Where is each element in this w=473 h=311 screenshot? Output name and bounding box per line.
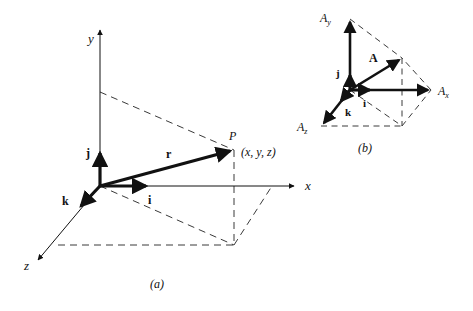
y-axis-label: y [86, 31, 94, 46]
unit-vector-k [341, 90, 350, 101]
x-axis-label: x [304, 178, 311, 193]
component-Ay-label: Ay [319, 11, 331, 27]
point-p-label: P [228, 129, 237, 143]
panel-b-unit-vector-i-label: i [363, 97, 366, 109]
unit-vector-k [81, 186, 100, 206]
position-vector-r-label: r [166, 147, 172, 161]
dash-base-corner-to-x [234, 186, 272, 245]
panel-a-vectors [81, 151, 230, 206]
point-p-coordinates: (x, y, z) [241, 145, 276, 159]
component-Ax-label: Ax [437, 84, 449, 100]
component-Ay-label-subscript: y [326, 18, 331, 27]
dash-Ax-to-A [402, 58, 431, 90]
dash-origin-to-base [350, 90, 402, 126]
z-axis-label: z [23, 258, 29, 273]
component-Az-label: Az [296, 120, 308, 136]
figure-container: y x z i j k r P (x, y, z) (a) [0, 0, 473, 311]
panel-a: y x z i j k r P (x, y, z) (a) [23, 30, 311, 291]
panel-b-unit-vector-j-label: j [335, 67, 340, 79]
panel-a-caption: (a) [150, 277, 164, 291]
unit-vector-i-label: i [148, 193, 152, 207]
panel-b-unit-vector-k-label: k [345, 106, 352, 118]
panel-b-caption: (b) [358, 141, 372, 155]
dash-y-to-P [100, 92, 234, 150]
component-Ax-label-subscript: x [444, 91, 449, 100]
position-vector-r [100, 151, 230, 186]
unit-vector-k-label: k [62, 194, 69, 208]
panel-b: Ay Ax Az A i j k (b) [296, 11, 449, 155]
dash-base-to-Ax [402, 90, 431, 126]
unit-vector-j-label: j [85, 146, 90, 160]
vector-diagram-svg: y x z i j k r P (x, y, z) (a) [0, 0, 473, 311]
component-Az-label-subscript: z [303, 127, 308, 136]
vector-A-label: A [369, 51, 378, 65]
dash-origin-to-base-corner [100, 186, 234, 245]
